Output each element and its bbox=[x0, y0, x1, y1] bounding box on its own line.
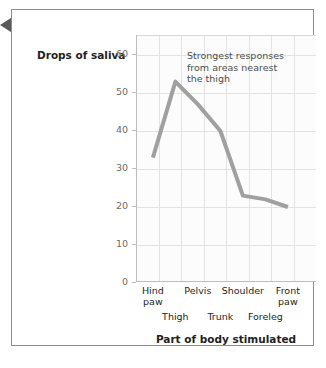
chart-card: Drops of saliva 0102030405060 HindpawPel… bbox=[11, 9, 314, 346]
y-tick-label: 60 bbox=[100, 48, 128, 59]
y-tick-label: 10 bbox=[100, 238, 128, 249]
annotation-line: Strongest responses bbox=[187, 50, 292, 62]
x-axis-line bbox=[136, 281, 316, 282]
y-tick-mark bbox=[132, 282, 136, 283]
y-tick-mark bbox=[132, 206, 136, 207]
chart-figure: Drops of saliva 0102030405060 HindpawPel… bbox=[0, 0, 326, 368]
y-tick-label: 30 bbox=[100, 162, 128, 173]
annotation-line: from areas nearest bbox=[187, 62, 292, 74]
y-tick-label: 0 bbox=[100, 276, 128, 287]
y-tick-mark bbox=[132, 168, 136, 169]
annotation-line: the thigh bbox=[187, 73, 292, 85]
y-tick-mark bbox=[132, 92, 136, 93]
y-tick-mark bbox=[132, 54, 136, 55]
y-tick-label: 20 bbox=[100, 200, 128, 211]
y-tick-mark bbox=[132, 244, 136, 245]
y-tick-label: 50 bbox=[100, 86, 128, 97]
x-tick-label: Frontpaw bbox=[262, 286, 314, 307]
x-tick-label: Foreleg bbox=[239, 312, 291, 323]
y-axis-line bbox=[136, 35, 137, 282]
chart-annotation: Strongest responsesfrom areas nearestthe… bbox=[187, 50, 292, 85]
x-axis-title: Part of body stimulated bbox=[136, 333, 316, 345]
y-tick-label: 40 bbox=[100, 124, 128, 135]
y-tick-mark bbox=[132, 130, 136, 131]
